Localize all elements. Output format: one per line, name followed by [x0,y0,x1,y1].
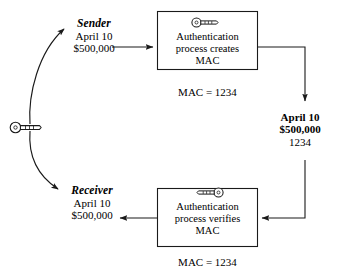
mac-authentication-diagram: Sender April 10 $500,000 Authentication … [0,0,337,279]
curve-key-to-receiver [30,131,58,189]
top-box-line-2: process creates [157,43,258,55]
receiver-date: April 10 [58,197,126,209]
message-date: April 10 [266,111,334,123]
top-box-line-3: MAC [157,55,258,67]
bottom-mac-caption: MAC = 1234 [157,256,258,268]
curve-key-to-sender [30,29,64,124]
transmitted-message-block: April 10 $500,000 1234 [266,111,334,148]
arrow-message-to-bottom-box [262,160,305,218]
top-process-box-text: Authentication process creates MAC [157,31,258,66]
sender-date: April 10 [63,30,125,42]
bottom-box-line-3: MAC [157,225,258,237]
receiver-amount: $500,000 [58,209,126,221]
sender-block: Sender April 10 $500,000 [63,17,125,55]
key-icon-shared [10,122,41,133]
sender-role-label: Sender [63,17,125,30]
bottom-box-line-2: process verifies [157,213,258,225]
sender-amount: $500,000 [63,42,125,54]
message-amount: $500,000 [266,123,334,135]
message-mac: 1234 [266,136,334,148]
arrow-top-box-to-message [258,47,306,101]
bottom-process-box-text: Authentication process verifies MAC [157,201,258,236]
top-mac-caption: MAC = 1234 [157,86,258,98]
top-box-line-1: Authentication [157,31,258,43]
bottom-box-line-1: Authentication [157,201,258,213]
receiver-role-label: Receiver [58,184,126,197]
receiver-block: Receiver April 10 $500,000 [58,184,126,222]
